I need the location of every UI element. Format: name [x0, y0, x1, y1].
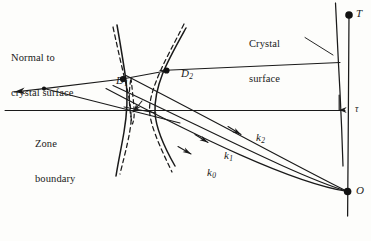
- point-O-label: O: [356, 184, 364, 196]
- normal-label-line-2: crystal surface: [11, 87, 73, 99]
- zone-label-line-1: Zone: [35, 138, 75, 150]
- k2-subscript: 2: [261, 136, 265, 145]
- k1-subscript: 1: [229, 154, 233, 163]
- tau-vector-label: τ: [355, 104, 358, 115]
- normal-to-crystal-surface-label: Normal to crystal surface: [11, 28, 73, 122]
- zone-boundary-label: Zone boundary: [35, 114, 75, 208]
- wave-vector-k2-label: k2: [245, 119, 265, 158]
- crystal-label-line-2: surface: [249, 73, 280, 85]
- tie-point-D1-label: D1: [105, 62, 128, 101]
- point-T-label: T: [356, 7, 362, 19]
- point-T-marker: [345, 11, 353, 19]
- crystal-surface-label: Crystal surface: [249, 14, 280, 108]
- D1-letter: D: [116, 74, 124, 86]
- T-O-vertical-line: [348, 14, 349, 216]
- dispersion-surface-figure: Normal to crystal surface Zone boundary …: [0, 0, 371, 241]
- crystal-surface-curve: [336, 3, 344, 166]
- zone-label-line-2: boundary: [35, 173, 75, 185]
- point-D2-marker: [163, 67, 169, 73]
- wave-vector-k0-label: k0: [196, 154, 216, 193]
- k0-subscript: 0: [212, 171, 216, 180]
- crystal-surface-leader-line: [305, 38, 333, 56]
- D2-subscript: 2: [189, 72, 193, 81]
- normal-label-line-1: Normal to: [11, 52, 73, 64]
- D2-letter: D: [181, 67, 189, 79]
- point-O-marker: [344, 188, 352, 196]
- tie-point-D2-label: D2: [170, 55, 193, 94]
- D1-subscript: 1: [124, 79, 128, 88]
- crystal-label-line-1: Crystal: [249, 38, 280, 50]
- k0-arrow: [178, 147, 191, 155]
